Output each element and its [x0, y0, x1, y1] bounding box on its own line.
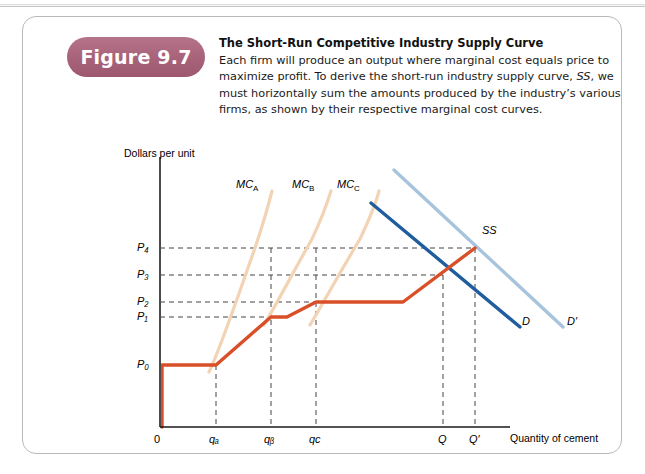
mc-b-label: MCB — [292, 178, 314, 193]
d-prime-label: D′ — [567, 315, 577, 327]
demand-curve-d-prime — [394, 170, 563, 327]
x-tick-origin: 0 — [154, 433, 160, 445]
mc-a-label-text: MC — [236, 178, 253, 190]
mc-c-curve — [310, 191, 379, 325]
y-tick-p1-text: P₁ — [137, 310, 148, 322]
ss-label: SS — [482, 224, 497, 236]
supply-curve-chart — [23, 17, 645, 474]
x-tick-qa: qₐ — [209, 433, 219, 445]
y-tick-p4-text: P₄ — [137, 241, 149, 253]
y-tick-p3-text: P₃ — [137, 268, 149, 280]
page-top-rule — [0, 4, 645, 7]
x-tick-qc: qᴄ — [309, 433, 321, 445]
mc-c-label-text: MC — [337, 178, 354, 190]
marginal-cost-curves — [209, 191, 379, 372]
x-tick-q: Q — [438, 433, 447, 445]
x-axis-label: Quantity of cement — [510, 432, 598, 444]
y-tick-p1: P₁ — [137, 310, 148, 322]
price-gridlines — [160, 248, 475, 365]
mc-b-label-sub: B — [309, 184, 314, 193]
mc-a-label-sub: A — [253, 184, 258, 193]
y-tick-p0: P₀ — [137, 358, 149, 370]
d-label-text: D — [522, 315, 530, 327]
figure-page: Figure 9.7 The Short-Run Competitive Ind… — [0, 0, 645, 474]
x-tick-qc-text: qᴄ — [309, 433, 321, 445]
d-prime-label-text: D′ — [567, 315, 577, 327]
y-tick-p0-text: P₀ — [137, 358, 149, 370]
x-tick-origin-text: 0 — [154, 433, 160, 445]
x-axis-label-text: Quantity of cement — [510, 432, 598, 444]
x-tick-qb: qᵦ — [264, 433, 275, 445]
mc-a-label: MCA — [236, 178, 258, 193]
d-label: D — [522, 315, 530, 327]
x-tick-q-prime: Q′ — [469, 433, 480, 445]
figure-card: Figure 9.7 The Short-Run Competitive Ind… — [22, 16, 622, 454]
x-tick-q-prime-text: Q′ — [469, 433, 480, 445]
y-tick-p2: P₂ — [137, 295, 149, 307]
y-tick-p2-text: P₂ — [137, 295, 149, 307]
ss-label-text: SS — [482, 224, 497, 236]
y-axis-label: Dollars per unit — [124, 147, 195, 159]
x-tick-qb-text: qᵦ — [264, 433, 275, 445]
y-axis-label-text: Dollars per unit — [124, 147, 195, 159]
mc-c-label: MCC — [337, 178, 360, 193]
mc-b-label-text: MC — [292, 178, 309, 190]
mc-c-label-sub: C — [354, 184, 360, 193]
x-tick-q-text: Q — [438, 433, 447, 445]
y-tick-p4: P₄ — [137, 241, 149, 253]
y-tick-p3: P₃ — [137, 268, 149, 280]
x-tick-qa-text: qₐ — [209, 433, 219, 445]
